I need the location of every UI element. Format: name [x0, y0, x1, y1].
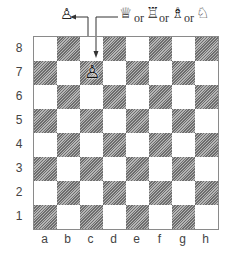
rook-icon: ♖	[146, 6, 159, 21]
square-a1	[34, 205, 57, 229]
square-e5	[126, 109, 149, 133]
square-d2	[103, 181, 126, 205]
square-h6	[195, 85, 218, 109]
bishop-icon: ♗	[171, 6, 184, 21]
rank-label-3: 3	[14, 161, 24, 175]
file-label-c: c	[79, 232, 102, 246]
square-a3	[34, 157, 57, 181]
square-b4	[57, 133, 80, 157]
square-d6	[103, 85, 126, 109]
square-f8	[149, 37, 172, 61]
or-label: or	[134, 11, 144, 26]
square-e7	[126, 61, 149, 85]
rank-label-4: 4	[14, 137, 24, 151]
pawn-above-icon: ♙	[60, 7, 73, 22]
rank-label-1: 1	[14, 209, 24, 223]
white-pawn-c7-icon: ♙	[84, 63, 100, 81]
square-h8	[195, 37, 218, 61]
square-a5	[34, 109, 57, 133]
square-g3	[172, 157, 195, 181]
file-label-f: f	[148, 232, 171, 246]
or-label: or	[159, 11, 169, 26]
square-h2	[195, 181, 218, 205]
knight-icon: ♘	[196, 6, 209, 21]
rank-label-5: 5	[14, 113, 24, 127]
rank-label-6: 6	[14, 89, 24, 103]
rank-label-7: 7	[14, 65, 24, 79]
or-label: or	[184, 11, 194, 26]
square-f6	[149, 85, 172, 109]
queen-icon: ♕	[119, 6, 132, 21]
file-label-h: h	[194, 232, 217, 246]
square-d8	[103, 37, 126, 61]
square-c5	[80, 109, 103, 133]
chess-board: ♙	[33, 36, 219, 230]
square-b2	[57, 181, 80, 205]
square-e1	[126, 205, 149, 229]
rank-label-2: 2	[14, 185, 24, 199]
square-b8	[57, 37, 80, 61]
square-h4	[195, 133, 218, 157]
square-f2	[149, 181, 172, 205]
file-label-b: b	[56, 232, 79, 246]
square-c3	[80, 157, 103, 181]
file-label-a: a	[33, 232, 56, 246]
square-g5	[172, 109, 195, 133]
square-g1	[172, 205, 195, 229]
rank-label-8: 8	[14, 41, 24, 55]
square-c1	[80, 205, 103, 229]
file-label-g: g	[171, 232, 194, 246]
square-a7	[34, 61, 57, 85]
file-label-e: e	[125, 232, 148, 246]
square-b6	[57, 85, 80, 109]
square-e3	[126, 157, 149, 181]
square-g7	[172, 61, 195, 85]
square-f4	[149, 133, 172, 157]
square-d4	[103, 133, 126, 157]
file-label-d: d	[102, 232, 125, 246]
